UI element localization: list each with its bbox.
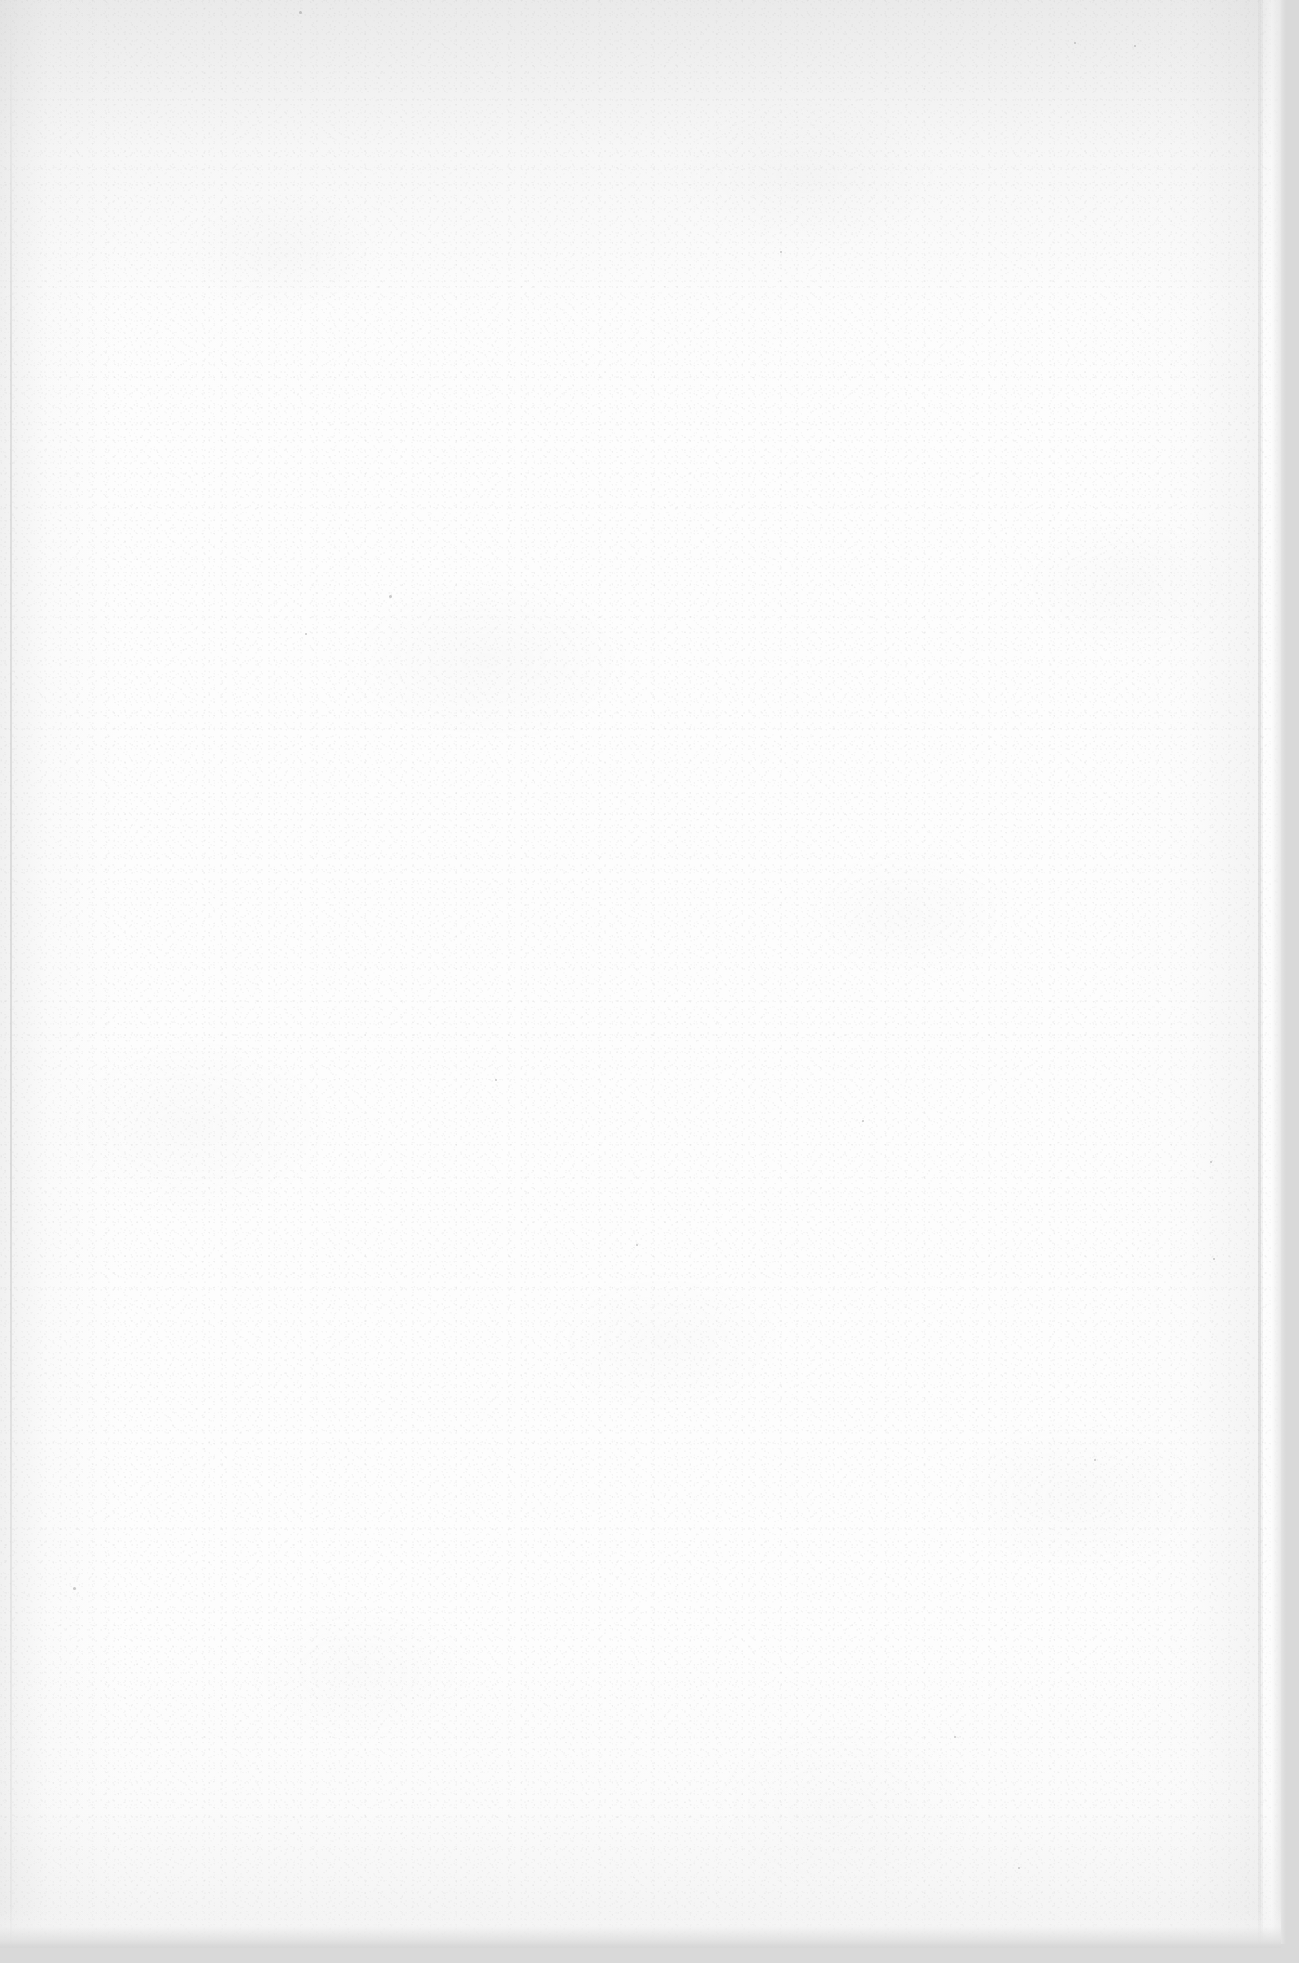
- dust-speck: [1094, 1459, 1096, 1461]
- left-vignette: [0, 0, 120, 1944]
- dust-speck: [1018, 1867, 1020, 1869]
- dust-speck: [954, 1736, 956, 1738]
- right-crease-line: [1258, 0, 1261, 1944]
- dust-speck: [1210, 1161, 1212, 1163]
- paper-mottle-texture: [0, 0, 1281, 1944]
- left-crease-line: [10, 0, 12, 1944]
- paper-bottom-edge-shadow: [0, 1908, 1281, 1948]
- dust-speck: [389, 595, 392, 598]
- dust-speck: [299, 11, 302, 14]
- dust-speck: [1074, 42, 1076, 44]
- dust-speck: [305, 633, 307, 635]
- right-vignette: [1113, 0, 1263, 1944]
- dust-speck: [862, 1120, 864, 1122]
- dust-speck: [1213, 1258, 1215, 1260]
- dust-speck: [1134, 45, 1136, 47]
- dust-speck: [73, 1587, 76, 1590]
- bottom-vignette: [0, 1640, 1281, 1944]
- paper-sheet: [0, 0, 1281, 1944]
- dust-speck: [636, 1244, 638, 1246]
- dust-speck: [495, 1079, 497, 1081]
- scanned-page: [0, 0, 1299, 1963]
- top-vignette: [0, 0, 1281, 430]
- paper-right-edge-shadow: [1264, 0, 1286, 1944]
- dust-speck: [780, 251, 782, 253]
- paper-grain-texture: [0, 0, 1281, 1944]
